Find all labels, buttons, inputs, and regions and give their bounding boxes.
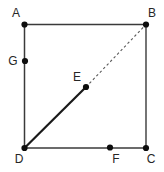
diagonal-segment-dashed-E-B (86, 25, 146, 88)
geometry-diagram-canvas: ABCDGEF (0, 0, 164, 172)
point-label-A: A (12, 6, 20, 20)
diagonal-segment-solid-D-E (25, 87, 87, 148)
point-label-G: G (8, 54, 17, 68)
point-label-B: B (148, 6, 156, 20)
point-dot-D (21, 145, 27, 151)
point-label-D: D (15, 152, 24, 166)
point-dot-F (107, 144, 113, 150)
point-label-E: E (73, 70, 81, 84)
point-dot-G (22, 58, 28, 64)
point-dot-B (143, 21, 149, 27)
point-dot-A (21, 21, 27, 27)
point-dot-E (83, 84, 89, 90)
point-label-F: F (112, 152, 119, 166)
square-diagram-svg: ABCDGEF (0, 0, 164, 172)
point-label-C: C (147, 152, 156, 166)
point-dot-C (143, 145, 149, 151)
